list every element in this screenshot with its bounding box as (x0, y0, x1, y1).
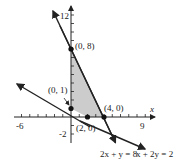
x-axis-label: x (149, 104, 154, 114)
linear-inequalities-graph: (0, 8) (0, 1) (2, 0) (4, 0) -6 9 12 -2 x… (0, 0, 176, 163)
label-point-4-0: (4, 0) (104, 103, 124, 113)
label-point-0-1: (0, 1) (48, 85, 68, 95)
tick-label-12: 12 (60, 11, 69, 21)
tick-label-9: 9 (140, 121, 145, 131)
label-line-x-plus-2y: x + 2y = 2 (136, 149, 173, 159)
tick-label-neg6: -6 (16, 121, 24, 131)
point-0-1 (68, 106, 73, 111)
label-point-2-0: (2, 0) (76, 123, 96, 133)
point-2-0 (85, 114, 90, 119)
pointer-arrow (64, 98, 69, 105)
point-4-0 (101, 114, 106, 119)
label-point-0-8: (0, 8) (75, 41, 95, 51)
tick-label-neg2: -2 (59, 129, 67, 139)
point-0-8 (68, 46, 73, 51)
label-line-2x-plus-y: 2x + y = 8 (100, 149, 138, 159)
